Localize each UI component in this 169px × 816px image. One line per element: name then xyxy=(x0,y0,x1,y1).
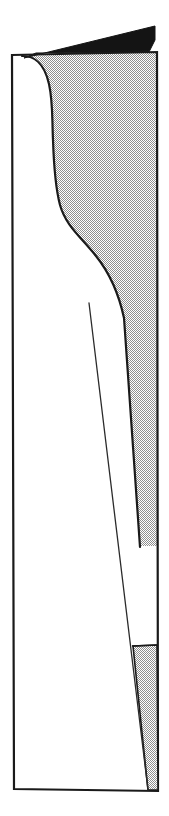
lower-wedge-top-rule xyxy=(132,645,157,646)
diagram-root xyxy=(0,0,169,816)
diagram-canvas xyxy=(0,0,169,816)
